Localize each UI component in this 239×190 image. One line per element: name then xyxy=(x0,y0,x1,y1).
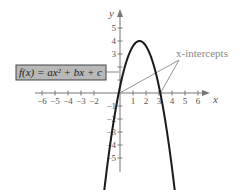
x-intercepts-annotation: x-intercepts xyxy=(176,47,228,59)
x-tick-label: 2 xyxy=(144,96,149,106)
y-tick-label: 4 xyxy=(112,36,117,46)
x-tick-label: −3 xyxy=(76,96,86,106)
y-tick-label: 3 xyxy=(112,49,117,59)
x-tick-label: 4 xyxy=(170,96,175,106)
x-tick-label: 6 xyxy=(196,96,201,106)
x-tick-label: −5 xyxy=(50,96,60,106)
x-tick-label: −2 xyxy=(89,96,99,106)
y-tick-label: −1 xyxy=(106,101,116,111)
annotation-pointers xyxy=(118,60,179,94)
parabola-chart: −6−5−4−3−2123456 543−1−2−3−4−5 x y x-int… xyxy=(0,0,239,190)
x-axis-arrow-icon xyxy=(202,90,210,96)
y-tick-label: 5 xyxy=(112,23,117,33)
y-axis-label: y xyxy=(108,7,114,19)
x-axis-label: x xyxy=(212,93,218,105)
function-label: f(x) = ax² + bx + c xyxy=(19,66,102,79)
x-tick-label: −6 xyxy=(37,96,47,106)
x-tick-label: 5 xyxy=(183,96,188,106)
y-axis-arrow-icon xyxy=(117,9,123,17)
axes xyxy=(35,9,210,172)
x-tick-label: 1 xyxy=(131,96,136,106)
x-tick-label: −4 xyxy=(63,96,73,106)
